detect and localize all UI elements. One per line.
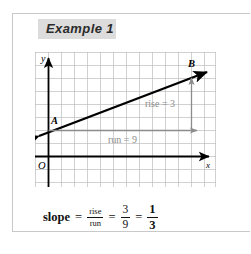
point-label-B: B: [187, 58, 195, 69]
example-heading-label: Example 1: [46, 21, 114, 36]
equals-sign-3: =: [135, 210, 142, 225]
fraction-rise-over-run: rise run: [87, 207, 103, 227]
point-label-A: A: [50, 115, 58, 126]
run-label: run = 9: [108, 134, 137, 145]
coordinate-graph-figure: y x O A B run = 9 rise = 3: [35, 52, 216, 187]
fraction-three-over-nine: 3 9: [121, 204, 131, 230]
fraction-denominator-three: 3: [147, 219, 157, 232]
rise-label: rise = 3: [145, 98, 175, 109]
equals-sign-1: =: [75, 210, 82, 225]
slope-formula: slope = rise run = 3 9 = 1 3: [43, 203, 158, 231]
fraction-numerator-rise: rise: [87, 207, 103, 216]
example-heading-chip: Example 1: [38, 19, 116, 39]
fraction-numerator-three: 3: [121, 204, 131, 216]
equals-sign-2: =: [108, 210, 115, 225]
fraction-denominator-run: run: [88, 219, 103, 228]
x-axis-label: x: [205, 160, 210, 170]
slope-word: slope: [43, 210, 70, 225]
y-axis-label: y: [40, 53, 46, 64]
fraction-denominator-nine: 9: [121, 219, 131, 231]
origin-label: O: [38, 160, 46, 171]
fraction-numerator-one: 1: [147, 203, 157, 216]
coordinate-graph-svg: y x O A B run = 9 rise = 3: [35, 52, 216, 187]
graph-background: [35, 52, 216, 187]
fraction-one-over-three: 1 3: [147, 203, 157, 232]
